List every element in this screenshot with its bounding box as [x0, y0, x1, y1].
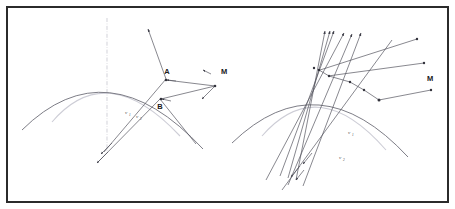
fan-arrow-2	[288, 31, 330, 178]
m-arrow-upper-left	[203, 70, 211, 74]
outgoing-ray-1	[320, 39, 417, 70]
svg-text:1: 1	[352, 133, 354, 137]
point-B-marker	[160, 98, 163, 101]
ray2-tail-arrow	[97, 152, 108, 163]
label-point-B: B	[157, 102, 163, 111]
left-panel: A B M v 1 v 2	[22, 18, 227, 163]
arrow-into-B	[162, 99, 171, 101]
long-crossing-line	[282, 40, 392, 190]
outgoing-ray-2-endpoint	[423, 62, 425, 64]
ray-to-B-left	[99, 99, 160, 161]
outgoing-ray-2	[328, 63, 424, 76]
chain-point-5	[363, 89, 365, 91]
chain-point-2	[318, 69, 320, 71]
svg-text:1: 1	[129, 113, 131, 117]
svg-text:v: v	[136, 114, 139, 119]
chain-point-6	[378, 99, 381, 102]
m-arrow-lower-left	[202, 86, 215, 99]
label-point-A: A	[164, 67, 170, 76]
chain-seg-3	[350, 82, 364, 90]
trajectory-light-right	[262, 107, 386, 150]
outgoing-ray-1-endpoint	[416, 38, 418, 40]
ray-to-A-left	[104, 79, 166, 152]
label-point-M-right: M	[427, 74, 433, 83]
chain-point-4	[349, 81, 351, 83]
figure-root: A B M v 1 v 2	[0, 0, 455, 209]
ray1-tail-arrow	[101, 143, 112, 154]
point-A-marker	[165, 79, 168, 82]
right-panel: M v 1 v 2	[232, 31, 433, 190]
chain-point-1	[313, 67, 315, 69]
label-point-M: M	[221, 67, 227, 76]
svg-text:2: 2	[140, 117, 142, 121]
outgoing-ray-3-endpoint	[430, 89, 432, 91]
svg-text:v: v	[348, 130, 351, 135]
fan-arrow-3	[280, 31, 334, 176]
velocity-label-v2-right: v 2	[339, 155, 345, 162]
trajectory-dark-left	[22, 92, 203, 149]
svg-text:v: v	[339, 155, 342, 160]
figure-canvas: A B M v 1 v 2	[0, 0, 455, 209]
chain-seg-4	[364, 90, 379, 100]
arrow-into-A	[167, 80, 176, 81]
fan-arrow-4	[266, 33, 344, 180]
svg-text:2: 2	[343, 158, 345, 162]
velocity-label-v1-right: v 1	[348, 130, 354, 137]
point-M-marker	[214, 85, 217, 88]
velocity-label-v1-left: v 1	[125, 110, 131, 117]
chain-point-3	[328, 75, 330, 77]
segment-B-to-M	[161, 86, 215, 99]
outgoing-ray-3	[379, 90, 431, 100]
trajectory-dark-right	[232, 105, 408, 157]
svg-text:v: v	[125, 110, 128, 115]
